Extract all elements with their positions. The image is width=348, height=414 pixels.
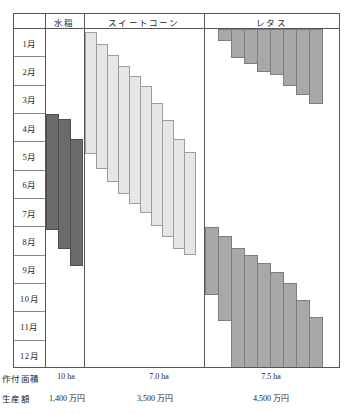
month-label-4: 4月 [14,114,45,142]
month-label-3: 3月 [14,86,45,114]
bar-lettuce-wrap-3 [244,29,258,64]
bar-lettuce-4 [244,255,258,367]
bar-lettuce-wrap-5 [270,29,284,75]
footer-area-rice: 10 ha [44,372,88,381]
bar-corn-10 [184,152,196,255]
bar-lettuce-wrap-6 [283,29,297,86]
footer-area-lettuce: 7.5 ha [206,372,336,381]
footer-area-sweetcorn: 7.0 ha [104,372,214,381]
month-label-12: 12月 [14,341,45,369]
month-label-7: 7月 [14,199,45,227]
month-label-1: 1月 [14,29,45,57]
header-cell-lettuce: レタス [204,14,339,29]
month-label-8: 8月 [14,227,45,255]
bar-lettuce-7 [283,283,297,367]
chart-header-row: 水稲 スイートコーン レタス [14,14,339,29]
bar-rice-3 [70,139,83,266]
footer-value-sweetcorn: 3,500 万円 [100,392,210,403]
chart-frame: 水稲 スイートコーン レタス 1月 2月 3月 4月 5月 6月 7月 8月 9… [13,13,340,368]
footer-value-lettuce: 4,500 万円 [206,392,336,403]
footer-value-rice: 1,400 万円 [36,392,98,403]
month-label-6: 6月 [14,171,45,199]
bar-lettuce-wrap-1 [218,29,232,41]
bar-lettuce-wrap-8 [309,29,323,104]
bar-lettuce-1 [205,227,219,295]
footer-label-value: 生産額 [2,392,30,404]
footer-row-value: 生産額 1,400 万円 3,500 万円 4,500 万円 [0,390,348,410]
bar-lettuce-6 [270,272,284,367]
month-label-2: 2月 [14,57,45,85]
month-label-9: 9月 [14,256,45,284]
month-label-10: 10月 [14,284,45,312]
plot-area [45,29,339,367]
bar-lettuce-3 [231,248,245,367]
bar-lettuce-wrap-2 [231,29,245,58]
month-label-5: 5月 [14,142,45,170]
month-label-column: 1月 2月 3月 4月 5月 6月 7月 8月 9月 10月 11月 12月 [14,29,45,367]
footer-row-area: 作付面積 10 ha 7.0 ha 7.5 ha [0,370,348,390]
bar-lettuce-wrap-7 [296,29,310,95]
header-cell-month [14,14,45,29]
bar-lettuce-2 [218,236,232,321]
header-cell-rice: 水稲 [45,14,84,29]
month-label-11: 11月 [14,312,45,340]
bar-lettuce-5 [257,263,271,367]
header-cell-sweetcorn: スイートコーン [84,14,204,29]
bar-lettuce-8 [296,300,310,367]
bar-lettuce-9 [309,317,323,367]
footer-summary: 作付面積 10 ha 7.0 ha 7.5 ha 生産額 1,400 万円 3,… [0,370,348,410]
crop-calendar-chart: 水稲 スイートコーン レタス 1月 2月 3月 4月 5月 6月 7月 8月 9… [0,0,348,414]
bar-lettuce-wrap-4 [257,29,271,72]
footer-label-area: 作付面積 [2,372,39,384]
